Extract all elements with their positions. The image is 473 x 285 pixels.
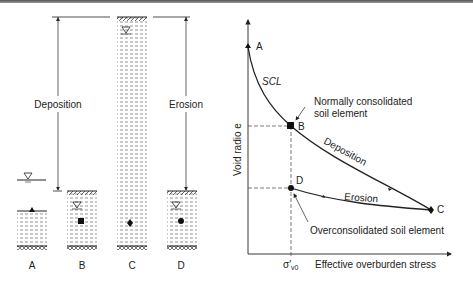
point-b-marker-icon [287, 122, 294, 129]
point-c-label: C [437, 204, 444, 215]
circle-marker-icon [178, 218, 184, 224]
oc-annotation: Overconsolidated soil element [310, 225, 444, 236]
erosion-label: Erosion [169, 99, 203, 110]
column-label-c: C [128, 260, 135, 271]
water-table-icon [24, 173, 32, 179]
point-d-marker-icon [288, 185, 294, 191]
soil-column-b [67, 191, 97, 250]
soil-column-d [167, 191, 197, 250]
chart: Void radio e Effective overburden stress… [232, 20, 451, 271]
soil-column-a [17, 173, 47, 250]
nc-annotation-line2: soil element [314, 108, 368, 119]
point-b-label: B [298, 121, 305, 132]
x-tick-label: σ′v0 [283, 259, 299, 271]
triangle-marker-icon [29, 207, 35, 212]
y-axis-label: Void radio e [232, 123, 243, 176]
erosion-curve-label: Erosion [344, 191, 379, 204]
column-label-b: B [79, 260, 86, 271]
square-marker-icon [78, 218, 84, 224]
point-a-label: A [256, 41, 263, 52]
column-label-a: A [29, 260, 36, 271]
scl-curve [248, 47, 431, 210]
soil-diagram: A B C D Deposition Erosion Void radio e … [0, 0, 473, 285]
nc-annotation-line1: Normally consolidated [314, 96, 412, 107]
soil-column-c [117, 17, 147, 250]
point-c-marker-icon [428, 206, 434, 214]
erosion-dimension: Erosion [153, 17, 203, 190]
point-a-marker-icon [245, 43, 251, 48]
deposition-label: Deposition [34, 99, 81, 110]
column-label-d: D [177, 260, 184, 271]
point-d-label: D [296, 175, 303, 186]
x-axis-label: Effective overburden stress [315, 259, 436, 270]
deposition-dimension: Deposition [34, 17, 110, 191]
scl-label: SCL [262, 76, 281, 87]
